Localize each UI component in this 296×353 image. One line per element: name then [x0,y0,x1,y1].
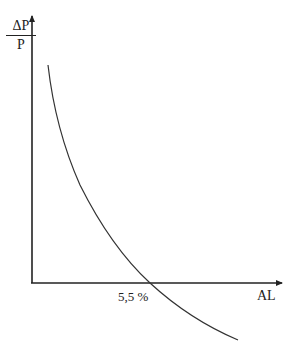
y-axis-numerator: ΔP [6,18,36,36]
y-axis-label: ΔP P [6,18,36,53]
x-tick-label: 5,5 % [118,289,148,305]
x-axis-label: AL [257,288,276,304]
y-axis-denominator: P [6,36,36,53]
